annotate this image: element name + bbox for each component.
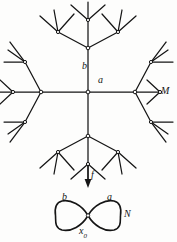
covering-space-figure: b a M f b a N x0: [0, 0, 177, 242]
basepoint-x0-dot: [86, 214, 89, 217]
tree-label-M: M: [161, 86, 169, 96]
loop-label-N: N: [124, 209, 131, 219]
map-label-f: f: [91, 170, 94, 180]
tree-twig: [151, 50, 168, 62]
tree-vertex: [56, 30, 59, 33]
tree-vertex: [56, 150, 59, 153]
tree-center-vertex: [86, 90, 90, 94]
tree-twig: [10, 42, 25, 62]
tree-twig: [58, 14, 74, 32]
arrow-head: [85, 179, 92, 188]
wedge-of-circles: [55, 201, 121, 231]
tree-edge-l-u: [25, 62, 41, 92]
tree-twig: [102, 14, 118, 32]
tree-vertex: [23, 60, 26, 63]
loop-label-b: b: [62, 192, 67, 202]
tree-vertex: [23, 120, 26, 123]
tree-edge-r-d: [135, 92, 151, 122]
tree-twig: [147, 80, 160, 92]
tree-twig: [88, 5, 105, 20]
tree-edge-u-r: [88, 32, 118, 48]
tree-edge-r-u: [135, 62, 151, 92]
basepoint-label-subscript: 0: [83, 232, 87, 240]
tree-vertex: [149, 60, 152, 63]
tree-edge-d-l: [58, 136, 88, 152]
tree-twig: [58, 152, 74, 170]
tree-vertex: [39, 90, 43, 94]
tree-twig: [0, 92, 13, 104]
tree-vertex: [86, 134, 90, 138]
tree-twig: [71, 164, 88, 179]
right-loop-a: [88, 201, 121, 231]
tree-diagram: [0, 0, 177, 242]
tree-twig: [102, 152, 118, 170]
tree-twig: [151, 122, 168, 134]
tree-twig: [8, 50, 25, 62]
tree-edge-u-l: [58, 32, 88, 48]
tree-vertex: [86, 162, 89, 165]
tree-twig: [151, 122, 166, 142]
tree-twig: [0, 80, 13, 92]
tree-vertex: [116, 30, 119, 33]
tree-edge-l-d: [25, 92, 41, 122]
tree-vertex: [133, 90, 137, 94]
tree-label-a: a: [98, 75, 103, 85]
tree-twig: [147, 92, 160, 104]
tree-vertex: [149, 120, 152, 123]
tree-label-b: b: [82, 61, 87, 71]
tree-twig: [151, 42, 166, 62]
tree-twig: [71, 5, 88, 20]
tree-vertex: [86, 46, 90, 50]
tree-twig: [10, 122, 25, 142]
tree-vertex: [116, 150, 119, 153]
loop-label-a: a: [107, 192, 112, 202]
tree-vertex: [11, 90, 14, 93]
tree-twig: [8, 122, 25, 134]
basepoint-label-x0: x0: [79, 226, 87, 239]
tree-vertex: [86, 18, 89, 21]
tree-edge-d-r: [88, 136, 118, 152]
